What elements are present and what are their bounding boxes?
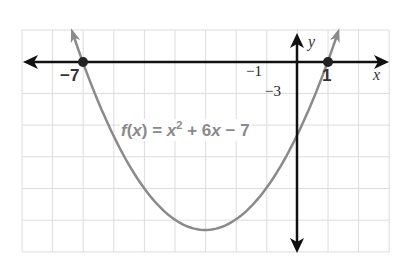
func-x2: x <box>167 121 176 140</box>
tick-label-neg3: −3 <box>265 83 281 100</box>
y-axis-label: y <box>308 33 315 51</box>
func-rest: + 6 <box>182 121 211 140</box>
label-neg7: −7 <box>60 66 79 86</box>
func-eq: = <box>147 121 166 140</box>
point-neg7 <box>78 57 88 67</box>
x-axis-label: x <box>373 66 380 84</box>
func-tail: − 7 <box>221 121 250 140</box>
tick-label-neg1: −1 <box>246 63 262 80</box>
func-x3: x <box>211 121 220 140</box>
grid <box>22 30 389 252</box>
func-x: x <box>132 121 141 140</box>
function-label: f(x) = x2 + 6x − 7 <box>120 119 251 141</box>
label-1: 1 <box>322 66 331 86</box>
